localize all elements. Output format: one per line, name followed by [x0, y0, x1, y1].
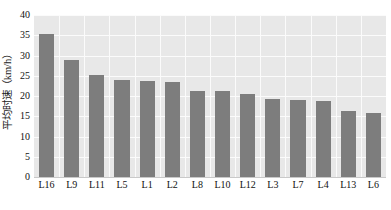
bar	[290, 100, 305, 177]
x-axis-tick-label: L3	[267, 179, 278, 191]
x-axis-tick-label: L13	[340, 179, 356, 191]
y-axis-tick-label: 5	[13, 152, 30, 162]
x-axis-tick-label: L7	[292, 179, 303, 191]
bar-chart: 平均时速（km/h） 0510152025303540 L16L9L11L5L1…	[0, 0, 391, 210]
y-axis-tick-label: 20	[13, 91, 30, 101]
y-axis-title: 平均时速（km/h）	[0, 0, 14, 178]
bar	[215, 91, 230, 177]
bar	[316, 101, 331, 177]
y-axis-tick-label: 15	[13, 111, 30, 121]
bar	[64, 60, 79, 177]
bar	[39, 34, 54, 177]
bar	[165, 82, 180, 177]
x-axis-tick-label: L8	[192, 179, 203, 191]
y-axis-tick-label: 35	[13, 30, 30, 40]
bar	[114, 80, 129, 177]
y-axis-tick-labels: 0510152025303540	[13, 0, 30, 178]
x-axis-line	[34, 177, 386, 178]
y-axis-tick-label: 30	[13, 51, 30, 61]
bar	[240, 94, 255, 177]
x-axis-tick-label: L12	[240, 179, 256, 191]
x-axis-tick-label: L16	[39, 179, 55, 191]
x-axis-tick-label: L2	[167, 179, 178, 191]
bar	[89, 75, 104, 177]
x-axis-tick-label: L1	[142, 179, 153, 191]
x-axis-tick-label: L6	[368, 179, 379, 191]
x-axis-tick-label: L5	[116, 179, 127, 191]
bar	[265, 99, 280, 177]
bar	[190, 91, 205, 177]
bar-series	[34, 15, 386, 177]
y-axis-tick-label: 0	[13, 172, 30, 182]
bar	[341, 111, 356, 177]
y-axis-tick-label: 25	[13, 71, 30, 81]
plot-area	[34, 15, 386, 177]
x-axis-tick-label: L10	[215, 179, 231, 191]
y-axis-tick-label: 40	[13, 10, 30, 20]
bar	[140, 81, 155, 177]
x-axis-tick-label: L4	[318, 179, 329, 191]
x-axis-tick-label: L11	[89, 179, 105, 191]
x-axis-tick-label: L9	[66, 179, 77, 191]
x-axis-tick-labels: L16L9L11L5L1L2L8L10L12L3L7L4L13L6	[34, 179, 386, 199]
bar	[366, 113, 381, 177]
y-axis-tick-label: 10	[13, 132, 30, 142]
